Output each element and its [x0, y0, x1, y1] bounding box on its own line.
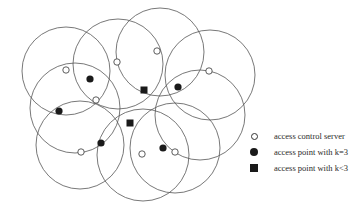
access-point-k3: [159, 144, 166, 151]
access-point-k3: [97, 139, 104, 146]
access-control-server: [172, 149, 178, 155]
access-points-klt3: [127, 87, 148, 127]
access-point-klt3: [141, 87, 148, 94]
access-control-server: [114, 59, 120, 65]
coverage-circle: [155, 70, 245, 160]
coverage-circle: [130, 103, 220, 193]
legend-item-access-point-klt3: access point with k<3: [248, 160, 348, 176]
access-control-server: [154, 48, 160, 54]
coverage-circles: [22, 8, 255, 201]
filled-circle-icon: [248, 146, 260, 158]
legend: access control server access point with …: [248, 128, 348, 176]
access-control-server: [63, 67, 69, 73]
coverage-diagram: [0, 0, 359, 211]
access-control-server: [93, 97, 99, 103]
coverage-circle: [165, 30, 255, 120]
legend-item-access-point-k3: access point with k=3: [248, 144, 348, 160]
legend-label: access point with k=3: [274, 147, 348, 157]
access-control-server: [78, 149, 84, 155]
access-control-server: [139, 151, 145, 157]
access-point-k3: [174, 83, 181, 90]
access-control-server: [206, 68, 212, 74]
access-point-k3: [55, 107, 62, 114]
access-point-k3: [86, 75, 93, 82]
legend-label: access control server: [274, 131, 345, 141]
open-circle-icon: [248, 130, 260, 142]
filled-square-icon: [248, 162, 260, 174]
access-point-klt3: [127, 120, 134, 127]
legend-label: access point with k<3: [274, 163, 348, 173]
legend-item-access-control-server: access control server: [248, 128, 348, 144]
